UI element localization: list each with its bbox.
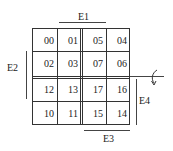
e1-bar (59, 22, 106, 23)
cell-05: 05 (82, 29, 106, 53)
kmap-grid: 00 01 05 04 02 03 07 06 12 13 17 16 10 1… (32, 28, 130, 125)
curved-arrow-icon (148, 68, 162, 88)
cell-01: 01 (57, 29, 81, 53)
grid-hline-2a (33, 76, 129, 77)
label-e2: E2 (7, 63, 18, 73)
cell-06: 06 (106, 52, 130, 76)
cell-14: 14 (106, 102, 130, 126)
cell-04: 04 (106, 29, 130, 53)
cell-07: 07 (82, 52, 106, 76)
cell-02: 02 (33, 52, 57, 76)
e2-bar (26, 51, 27, 99)
cell-03: 03 (57, 52, 81, 76)
cell-11: 11 (57, 102, 81, 126)
cell-13: 13 (57, 78, 81, 102)
cell-16: 16 (106, 78, 130, 102)
label-e4: E4 (139, 96, 150, 106)
cell-15: 15 (82, 102, 106, 126)
e3-bar (84, 130, 130, 131)
label-e3: E3 (103, 134, 114, 144)
cell-10: 10 (33, 102, 57, 126)
label-e1: E1 (78, 12, 89, 22)
e4-bar (136, 79, 137, 125)
cell-12: 12 (33, 78, 57, 102)
cell-17: 17 (82, 78, 106, 102)
cell-00: 00 (33, 29, 57, 53)
